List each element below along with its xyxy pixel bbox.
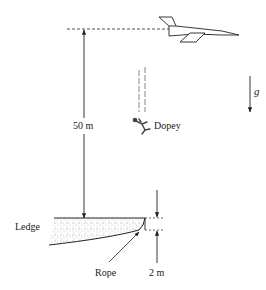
rope-pointer-arrow — [109, 232, 139, 262]
ledge-label: Ledge — [15, 221, 41, 232]
physics-diagram: 50 m Dopey g Ledge Rope 2 m — [0, 0, 266, 290]
character-label: Dopey — [154, 120, 181, 131]
rope-length-label: 2 m — [149, 267, 165, 278]
rope-label: Rope — [95, 267, 117, 278]
jet-plane-icon — [159, 17, 239, 42]
height-label: 50 m — [73, 120, 94, 131]
gravity-label: g — [254, 85, 260, 97]
falling-person-icon — [133, 118, 150, 134]
